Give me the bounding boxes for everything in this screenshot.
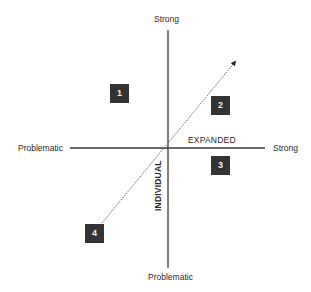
vertical-axis-bottom-label: Problematic [148, 273, 193, 282]
quadrant-box-1: 1 [110, 84, 129, 103]
horizontal-axis-name: EXPANDED [188, 136, 236, 145]
horizontal-axis-right-label: Strong [273, 144, 298, 153]
vertical-axis-name: INDIVIDUAL [154, 160, 163, 211]
vertical-axis-top-label: Strong [154, 15, 179, 24]
quadrant-box-2: 2 [211, 96, 230, 115]
horizontal-axis-left-label: Problematic [18, 144, 63, 153]
quadrant-box-4: 4 [85, 224, 104, 243]
quadrant-diagram: Strong Problematic Problematic Strong EX… [0, 0, 311, 292]
quadrant-box-3: 3 [211, 156, 230, 175]
